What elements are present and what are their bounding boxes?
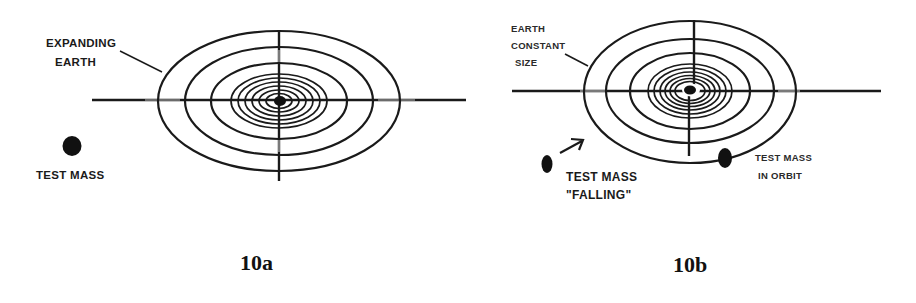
caption-10b: 10b <box>673 252 707 277</box>
figure-10a: EXPANDING EARTH TEST MASS 10a <box>36 30 466 275</box>
label-test-mass-falling: TEST MASS <box>566 170 637 184</box>
test-mass-10a <box>63 136 82 156</box>
label-in-orbit: IN ORBIT <box>758 170 802 181</box>
caption-10a: 10a <box>240 250 273 275</box>
label-constant: CONSTANT <box>511 40 565 51</box>
label-expanding: EXPANDING <box>46 37 116 49</box>
leader-line-10a <box>120 51 162 72</box>
test-mass-orbit <box>718 148 732 168</box>
label-size: SIZE <box>515 57 537 68</box>
label-earth-10b: EARTH <box>511 23 545 34</box>
label-test-mass-orbit: TEST MASS <box>755 152 812 163</box>
test-mass-falling <box>542 155 553 173</box>
label-earth: EARTH <box>55 56 96 68</box>
label-falling: "FALLING" <box>566 188 631 202</box>
earth-core-10b <box>684 86 696 95</box>
label-test-mass-10a: TEST MASS <box>36 169 105 181</box>
arrow-icon <box>560 139 583 153</box>
figure-10b: EARTH CONSTANT SIZE TEST MASS "FALLING" … <box>511 20 881 277</box>
diagram-canvas: EXPANDING EARTH TEST MASS 10a EARTH CONS… <box>0 0 916 303</box>
leader-line-10b <box>565 54 588 66</box>
earth-core-10a <box>274 96 286 106</box>
